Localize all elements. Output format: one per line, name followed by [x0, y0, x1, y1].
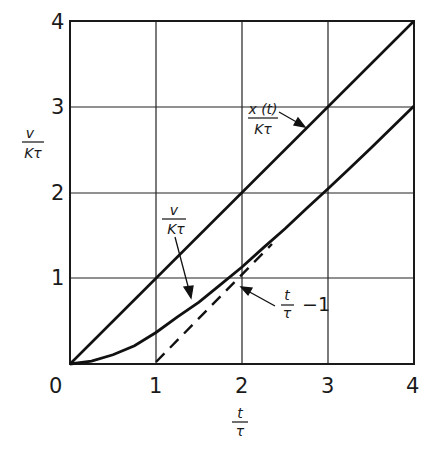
x-tick-2: 2	[235, 374, 248, 398]
svg-text:v: v	[170, 202, 179, 218]
svg-text:−1: −1	[302, 293, 330, 315]
y-axis-label: v Kτ	[22, 125, 44, 161]
x-tick-1: 1	[149, 374, 162, 398]
origin-label: 0	[49, 374, 62, 398]
chart: 0 1 2 3 4 1 2 3 4 v Kτ t τ x (t) Kτ v Kτ…	[0, 0, 438, 450]
svg-text:Kτ: Kτ	[167, 221, 185, 237]
y-tick-3: 3	[51, 95, 64, 119]
annotation-x-label: x (t) Kτ	[247, 101, 278, 137]
svg-text:t: t	[237, 405, 243, 421]
svg-text:Kτ: Kτ	[254, 121, 272, 137]
svg-text:Kτ: Kτ	[24, 145, 42, 161]
annotation-asymptote-label: t τ −1	[281, 287, 330, 321]
x-axis-label: t τ	[232, 405, 248, 439]
y-tick-4: 4	[51, 10, 64, 34]
annotation-v-label: v Kτ	[162, 202, 186, 237]
svg-text:x (t): x (t)	[247, 101, 277, 117]
annotation-arrows	[175, 112, 305, 306]
y-tick-1: 1	[51, 266, 64, 290]
x-tick-4: 4	[406, 374, 419, 398]
svg-text:v: v	[26, 125, 35, 141]
svg-text:τ: τ	[283, 305, 292, 321]
y-tick-2: 2	[51, 181, 64, 205]
x-tick-3: 3	[321, 374, 334, 398]
svg-text:t: t	[284, 287, 290, 303]
svg-text:τ: τ	[236, 423, 245, 439]
